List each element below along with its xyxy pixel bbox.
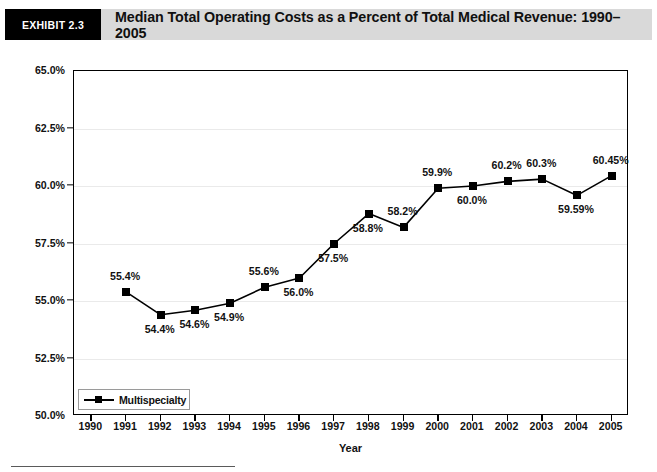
- y-axis-tick-mark: [67, 127, 73, 128]
- data-point-marker: [469, 182, 477, 190]
- x-axis-tick-mark: [333, 415, 334, 421]
- footnote-separator-rule: [11, 466, 235, 467]
- x-axis-tick-mark: [160, 415, 161, 421]
- y-axis-tick-label: 65.0%: [3, 64, 65, 76]
- y-axis-tick-label: 55.0%: [3, 294, 65, 306]
- data-point-value-label: 60.45%: [593, 154, 629, 166]
- data-point-value-label: 57.5%: [318, 252, 348, 264]
- y-axis-tick-label: 57.5%: [3, 237, 65, 249]
- data-point-marker: [365, 210, 373, 218]
- chart-figure: 55.4%54.4%54.6%54.9%55.6%56.0%57.5%58.8%…: [0, 48, 657, 448]
- chart-legend: Multispecialty: [78, 389, 190, 410]
- data-point-value-label: 59.9%: [422, 166, 452, 178]
- x-axis-tick-mark: [298, 415, 299, 421]
- y-axis-tick-label: 60.0%: [3, 179, 65, 191]
- data-point-marker: [538, 175, 546, 183]
- x-axis-tick-mark: [507, 415, 508, 421]
- data-point-value-label: 54.9%: [214, 311, 244, 323]
- data-point-marker: [261, 283, 269, 291]
- y-axis-tick-mark: [67, 299, 73, 300]
- y-axis-tick-mark: [67, 357, 73, 358]
- exhibit-header: EXHIBIT 2.3 Median Total Operating Costs…: [5, 9, 652, 40]
- data-point-marker: [434, 184, 442, 192]
- exhibit-title: Median Total Operating Costs as a Percen…: [115, 9, 646, 40]
- data-point-value-label: 60.0%: [457, 194, 487, 206]
- data-point-marker: [330, 240, 338, 248]
- data-point-marker: [573, 191, 581, 199]
- x-axis-tick-mark: [264, 415, 265, 421]
- data-point-value-label: 54.6%: [179, 318, 209, 330]
- x-axis-tick-mark: [229, 415, 230, 421]
- data-point-value-label: 59.59%: [558, 203, 594, 215]
- x-axis-tick-mark: [194, 415, 195, 421]
- data-point-marker: [122, 288, 130, 296]
- x-axis-tick-mark: [403, 415, 404, 421]
- data-point-value-label: 60.2%: [492, 159, 522, 171]
- y-axis-tick-label: 62.5%: [3, 122, 65, 134]
- data-point-marker: [191, 306, 199, 314]
- data-point-marker: [157, 311, 165, 319]
- y-axis-tick-mark: [67, 184, 73, 185]
- x-axis-tick-mark: [541, 415, 542, 421]
- legend-marker-icon: [84, 395, 114, 404]
- x-axis-tick-mark: [368, 415, 369, 421]
- data-point-marker: [400, 223, 408, 231]
- data-point-value-label: 58.2%: [388, 205, 418, 217]
- legend-label-multispecialty: Multispecialty: [119, 394, 186, 406]
- x-axis-tick-mark: [125, 415, 126, 421]
- x-axis-tick-mark: [437, 415, 438, 421]
- exhibit-number-badge: EXHIBIT 2.3: [5, 9, 101, 40]
- data-point-marker: [608, 172, 616, 180]
- x-axis-tick-mark: [472, 415, 473, 421]
- data-point-value-label: 60.3%: [526, 157, 556, 169]
- data-point-value-label: 56.0%: [283, 286, 313, 298]
- data-point-value-label: 58.8%: [353, 222, 383, 234]
- x-axis-tick-mark: [90, 415, 91, 421]
- data-point-value-label: 55.4%: [110, 270, 140, 282]
- plot-area: [73, 70, 628, 415]
- x-axis-tick-label: 2005: [586, 420, 636, 432]
- y-axis-tick-mark: [67, 242, 73, 243]
- series-line-multispecialty: [74, 71, 629, 416]
- y-axis-tick-label: 52.5%: [3, 352, 65, 364]
- y-axis-tick-label: 50.0%: [3, 409, 65, 421]
- data-point-marker: [504, 177, 512, 185]
- x-axis-tick-mark: [611, 415, 612, 421]
- data-point-value-label: 55.6%: [249, 265, 279, 277]
- data-point-marker: [226, 299, 234, 307]
- x-axis-tick-mark: [576, 415, 577, 421]
- data-point-value-label: 54.4%: [145, 323, 175, 335]
- x-axis-title: Year: [73, 442, 628, 454]
- data-point-marker: [295, 274, 303, 282]
